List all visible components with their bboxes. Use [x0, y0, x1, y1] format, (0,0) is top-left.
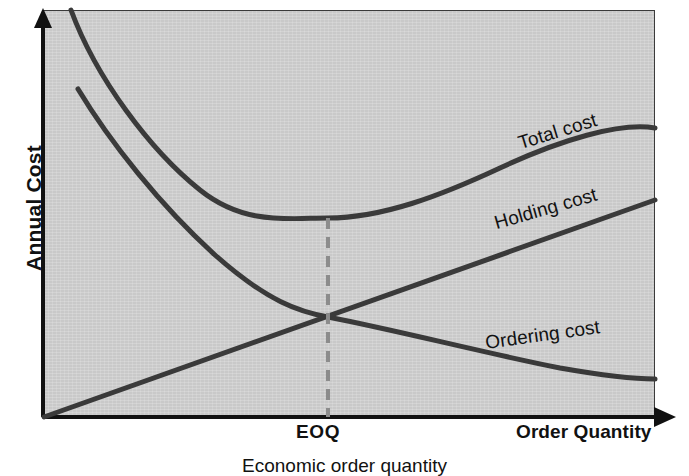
figure-caption: Economic order quantity	[0, 455, 689, 476]
y-axis-label: Annual Cost	[22, 138, 46, 278]
eoq-chart-figure: Annual Cost Order Quantity EOQ Total cos…	[0, 0, 689, 476]
x-axis-label: Order Quantity	[516, 421, 651, 443]
eoq-tick-label: EOQ	[296, 421, 340, 443]
